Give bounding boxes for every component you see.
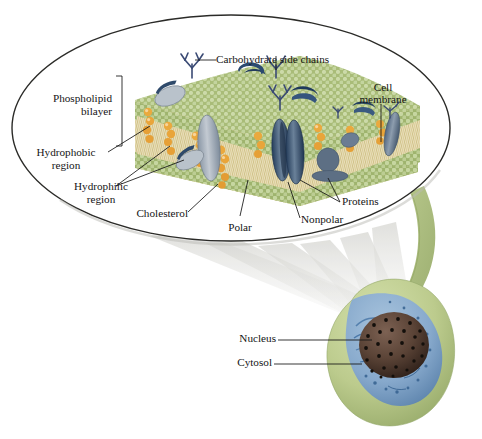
peripheral-protein-4 — [312, 171, 348, 182]
label-hydrophobic-line2: region — [20, 160, 112, 172]
label-cholesterol: Cholesterol — [118, 208, 188, 220]
label-nucleus: Nucleus — [218, 333, 276, 345]
label-hydrophobic-line1: Hydrophobic — [20, 147, 112, 159]
diagram-svg — [0, 0, 482, 439]
nucleus-body — [359, 312, 429, 378]
label-proteins: Proteins — [342, 196, 379, 208]
figure-canvas: Carbohydrate side chains Cell membrane P… — [0, 0, 482, 439]
peripheral-protein-3 — [317, 148, 339, 172]
label-phospholipid-line1: Phospholipid — [24, 93, 112, 105]
label-nonpolar: Nonpolar — [301, 214, 343, 226]
label-hydrophilic-line1: Hydrophilic — [58, 181, 144, 193]
label-polar: Polar — [212, 222, 268, 234]
label-carbohydrate-side-chains: Carbohydrate side chains — [216, 54, 329, 66]
label-cytosol: Cytosol — [218, 357, 272, 369]
label-phospholipid-line2: bilayer — [24, 106, 112, 118]
label-cell-membrane-line2: membrane — [348, 94, 418, 106]
label-hydrophilic-line2: region — [58, 194, 144, 206]
